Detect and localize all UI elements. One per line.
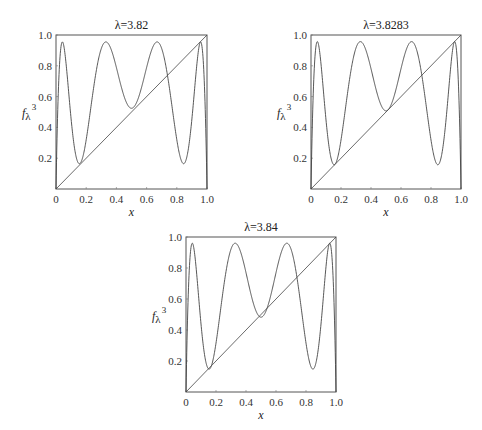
y-tick-label: 1.0 — [38, 29, 52, 41]
f-cubed-curve — [186, 243, 336, 392]
x-tick-label: 0.8 — [299, 396, 313, 408]
y-tick-label: 1.0 — [293, 29, 307, 41]
x-tick-label: 0.2 — [334, 193, 348, 205]
y-axis-label: fλ3 — [152, 305, 167, 325]
plot-title: λ=3.82 — [115, 18, 149, 32]
x-tick-label: 0.6 — [269, 396, 283, 408]
identity-line — [56, 35, 207, 189]
plot-title: λ=3.84 — [244, 220, 278, 234]
y-tick-label: 0.8 — [38, 60, 52, 72]
x-tick-label: 0.4 — [239, 396, 253, 408]
x-tick-label: 0.8 — [424, 193, 438, 205]
identity-line — [311, 35, 461, 189]
x-tick-label: 1.0 — [454, 193, 468, 205]
y-tick-label: 0.8 — [293, 60, 307, 72]
y-tick-label: 0.2 — [293, 152, 307, 164]
x-tick-label: 0.2 — [79, 193, 93, 205]
x-tick-label: 0.2 — [209, 396, 223, 408]
y-axis-label: fλ3 — [277, 102, 292, 122]
x-tick-label: 0.4 — [364, 193, 378, 205]
y-tick-label: 0.4 — [38, 121, 52, 133]
figure: λ=3.8200.20.40.60.81.00.20.40.60.81.0xfλ… — [0, 0, 482, 430]
y-tick-label: 0.6 — [293, 91, 307, 103]
y-tick-label: 0.4 — [168, 324, 182, 336]
x-axis-label: x — [382, 205, 389, 219]
y-axis-label: fλ3 — [22, 102, 37, 122]
y-tick-label: 0.8 — [168, 262, 182, 274]
x-tick-label: 1.0 — [200, 193, 214, 205]
x-tick-label: 0.6 — [394, 193, 408, 205]
plot-1: λ=3.8200.20.40.60.81.00.20.40.60.81.0xfλ… — [22, 18, 214, 219]
x-axis-label: x — [128, 205, 135, 219]
f-cubed-curve — [311, 42, 461, 189]
x-tick-label: 0.4 — [110, 193, 124, 205]
x-tick-label: 0.8 — [170, 193, 184, 205]
y-tick-label: 0.4 — [293, 121, 307, 133]
y-tick-label: 0.6 — [168, 293, 182, 305]
x-tick-label: 1.0 — [329, 396, 343, 408]
x-tick-label: 0.6 — [140, 193, 154, 205]
x-tick-label: 0 — [183, 396, 189, 408]
plot-3: λ=3.8400.20.40.60.81.00.20.40.60.81.0xfλ… — [152, 220, 343, 422]
x-axis-label: x — [257, 408, 264, 422]
y-tick-label: 0.6 — [38, 91, 52, 103]
x-tick-label: 0 — [53, 193, 59, 205]
x-tick-label: 0 — [308, 193, 314, 205]
y-tick-label: 0.2 — [168, 355, 182, 367]
plot-title: λ=3.8283 — [363, 18, 409, 32]
y-tick-label: 1.0 — [168, 231, 182, 243]
plot-2: λ=3.828300.20.40.60.81.00.20.40.60.81.0x… — [277, 18, 468, 219]
y-tick-label: 0.2 — [38, 152, 52, 164]
f-cubed-curve — [56, 42, 207, 189]
